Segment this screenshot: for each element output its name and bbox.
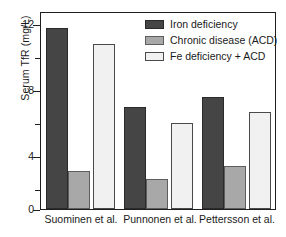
legend-item-iron-deficiency: Iron deficiency xyxy=(145,18,277,30)
legend-label-fe-deficiency-acd: Fe deficiency + ACD xyxy=(170,50,265,62)
bar-chronic-disease-pettersson xyxy=(224,166,246,209)
bar-fe-deficiency-acd-suominen xyxy=(93,44,115,209)
legend-item-chronic-disease: Chronic disease (ACD) xyxy=(145,34,277,46)
legend-swatch-icon-iron-deficiency xyxy=(145,20,164,29)
bar-iron-deficiency-suominen xyxy=(46,28,68,210)
y-tick-12 xyxy=(33,25,40,26)
legend-label-iron-deficiency: Iron deficiency xyxy=(170,18,238,30)
bar-chronic-disease-suominen xyxy=(68,171,90,209)
bar-chart: Serum TfR (mg/L) 12 8 4 0 Iron deficienc… xyxy=(0,0,286,237)
y-tick-4 xyxy=(33,157,40,158)
legend-item-fe-deficiency-acd: Fe deficiency + ACD xyxy=(145,50,277,62)
bar-iron-deficiency-punnonen xyxy=(124,107,146,209)
y-tick-label-0: 0 xyxy=(10,203,34,215)
y-tick-8 xyxy=(33,91,40,92)
legend-swatch-icon-fe-deficiency-acd xyxy=(145,52,164,61)
y-tick-0 xyxy=(33,210,40,211)
legend-label-chronic-disease: Chronic disease (ACD) xyxy=(170,34,277,46)
bar-fe-deficiency-acd-punnonen xyxy=(171,123,193,209)
legend: Iron deficiency Chronic disease (ACD) Fe… xyxy=(145,18,277,62)
y-tick-label-8: 8 xyxy=(10,84,34,96)
bar-iron-deficiency-pettersson xyxy=(202,97,224,209)
x-axis-label-pettersson: Pettersson et al. xyxy=(189,213,285,225)
bar-fe-deficiency-acd-pettersson xyxy=(249,112,271,209)
bar-chronic-disease-punnonen xyxy=(146,179,168,209)
y-tick-label-4: 4 xyxy=(10,150,34,162)
legend-swatch-icon-chronic-disease xyxy=(145,36,164,45)
plot-area: Iron deficiency Chronic disease (ACD) Fe… xyxy=(40,12,276,210)
y-tick-label-12: 12 xyxy=(10,18,34,30)
